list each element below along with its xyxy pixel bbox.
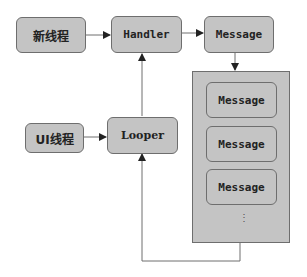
queue-message-2: Message (206, 126, 277, 162)
queue-message-3: Message (206, 169, 277, 205)
ui-thread-node: UI线程 (25, 123, 84, 153)
looper-node: Looper (107, 117, 178, 154)
queue-message-1: Message (206, 82, 277, 118)
handler-node: Handler (111, 16, 182, 53)
new-thread-node: 新线程 (16, 17, 86, 53)
queue-ellipsis: ⋮ (239, 216, 242, 230)
message-node: Message (204, 16, 274, 53)
